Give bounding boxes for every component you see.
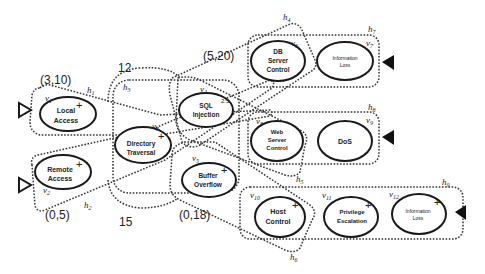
svg-text:Remote: Remote [47,166,73,173]
annotation-5-20: (5,20) [203,49,234,63]
start-triangle-v2 [19,178,31,192]
svg-text:Directory: Directory [127,140,156,148]
svg-text:Access: Access [48,175,73,182]
arc-15 [108,180,178,208]
vlabel-v3: v3 [152,121,159,132]
svg-text:+: + [76,158,82,170]
attack-hypergraph: Local Access + Remote Access + Directory… [0,0,485,274]
node-v8[interactable]: Web Server Control [251,121,303,161]
hlabel-h1: h1 [87,85,95,96]
svg-text:Buffer: Buffer [198,172,218,179]
hlabel-h4: h4 [283,12,291,23]
svg-text:+: + [434,196,440,208]
svg-text:SQL: SQL [199,102,212,110]
goal-triangle-h7 [382,55,394,70]
annotation-0-5: (0,5) [45,208,70,222]
vlabel-v10: v10 [250,190,260,201]
vlabel-v7: v7 [366,38,374,49]
svg-text:Overflow: Overflow [194,181,223,188]
hlabel-h3: h3 [123,82,131,93]
vlabel-v1: v1 [45,93,52,104]
svg-text:Access: Access [54,117,79,124]
hlabel-h7: h7 [368,24,377,35]
svg-text:DB: DB [273,48,283,55]
node-v4[interactable]: SQL Injection 2:5 [179,93,233,127]
annotation-0-18: (0,18) [179,208,210,222]
svg-text:Injection: Injection [193,111,220,119]
svg-text:+: + [221,164,227,176]
svg-text:Privilege: Privilege [339,209,365,215]
svg-text:Information: Information [332,55,357,61]
svg-text:+: + [76,99,82,111]
svg-text:Server: Server [268,57,289,64]
svg-text:DoS: DoS [338,138,352,145]
node-v3[interactable]: Directory Traversal + [115,127,171,163]
svg-text:Loss: Loss [340,62,351,68]
node-v7[interactable]: Information Loss [317,42,373,80]
svg-text:Escalation: Escalation [337,218,367,224]
svg-text:Traversal: Traversal [127,149,156,156]
svg-text:Control: Control [266,145,288,151]
svg-text:Control: Control [266,218,291,225]
node-v5[interactable]: Buffer Overflow + [182,163,236,197]
annotation-12: 12 [118,61,132,75]
svg-text:+: + [292,199,298,211]
hlabel-h2: h2 [84,200,92,211]
node-v10[interactable]: Host Control + [255,197,305,237]
vlabel-v11: v11 [322,190,332,201]
svg-text:+: + [365,199,371,211]
hlabel-h6: h6 [290,252,298,263]
svg-text:2:5: 2:5 [221,98,230,104]
annotation-3-10: (3,10) [40,73,71,87]
vlabel-v4: v4 [200,84,207,95]
node-v11[interactable]: Privilege Escalation + [324,197,378,237]
node-v9[interactable]: DoS [318,121,372,161]
node-v2[interactable]: Remote Access + [35,155,91,189]
vlabel-v6: v6 [291,38,298,49]
svg-text:Server: Server [268,137,287,143]
hlabel-h5: h5 [296,174,304,185]
goal-triangle-h8 [382,130,394,145]
annotation-15: 15 [119,215,133,229]
hlabel-h9: h9 [442,177,450,188]
svg-text:Information: Information [405,208,430,214]
vlabel-v12: v12 [389,189,399,200]
svg-text:Loss: Loss [413,215,424,221]
vlabel-v9: v9 [366,115,373,126]
svg-text:Control: Control [266,66,289,73]
start-triangle-v1 [19,103,31,117]
node-v12[interactable]: Information Loss + [392,194,446,234]
hlabel-h8: h8 [368,102,376,113]
goal-triangle-h9 [455,205,466,220]
svg-text:Host: Host [270,208,286,215]
svg-text:Web: Web [271,129,284,135]
vlabel-v5: v5 [192,153,199,164]
svg-text:Local: Local [57,107,75,114]
